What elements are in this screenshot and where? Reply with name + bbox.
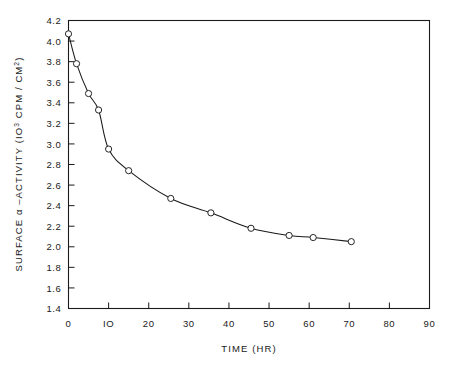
data-point-marker-0 bbox=[65, 31, 71, 37]
data-point-marker-8 bbox=[248, 225, 254, 231]
y-tick-label: 4.2 bbox=[46, 15, 61, 26]
data-point-marker-4 bbox=[106, 146, 112, 152]
data-point-marker-9 bbox=[286, 232, 292, 238]
y-tick-label: 3.0 bbox=[46, 139, 61, 150]
x-tick-label: 80 bbox=[383, 318, 395, 329]
y-tick-label: 2.4 bbox=[46, 200, 61, 211]
y-tick-label: 1.6 bbox=[46, 283, 61, 294]
y-tick-label: 1.8 bbox=[46, 262, 61, 273]
data-point-marker-6 bbox=[168, 195, 174, 201]
x-tick-label: 60 bbox=[303, 318, 315, 329]
x-tick-label: IO bbox=[103, 318, 114, 329]
y-tick-label: 2.0 bbox=[46, 241, 61, 252]
y-tick-label: 4.0 bbox=[46, 36, 61, 47]
y-tick-label: 3.2 bbox=[46, 118, 61, 129]
data-point-marker-10 bbox=[310, 234, 316, 240]
y-tick-label: 2.6 bbox=[46, 180, 61, 191]
y-tick-label: 2.8 bbox=[46, 159, 61, 170]
data-point-marker-2 bbox=[85, 90, 91, 96]
x-tick-label: 50 bbox=[263, 318, 275, 329]
chart-svg: 0IO2030405060708090 1.41.61.82.02.22.42.… bbox=[0, 0, 461, 370]
x-tick-label: 30 bbox=[183, 318, 195, 329]
y-tick-label: 2.2 bbox=[46, 221, 61, 232]
y-tick-label: 3.8 bbox=[46, 56, 61, 67]
x-tick-label: 70 bbox=[343, 318, 355, 329]
x-tick-label: 40 bbox=[223, 318, 235, 329]
y-axis-title: SURFACE α –ACTIVITY (IO3 CPM / CM2) bbox=[13, 57, 24, 272]
svg-text:SURFACE α –ACTIVITY (IO3 CPM: SURFACE α –ACTIVITY (IO3 CPM / CM2) bbox=[13, 57, 24, 272]
data-point-marker-11 bbox=[348, 239, 354, 245]
data-point-marker-7 bbox=[208, 210, 214, 216]
y-tick-label: 1.4 bbox=[46, 303, 61, 314]
x-axis-title: TIME (HR) bbox=[221, 343, 276, 354]
data-point-marker-1 bbox=[73, 61, 79, 67]
figure-container: 0IO2030405060708090 1.41.61.82.02.22.42.… bbox=[0, 0, 461, 370]
x-tick-label: 0 bbox=[66, 318, 72, 329]
y-tick-label: 3.6 bbox=[46, 77, 61, 88]
y-tick-label: 3.4 bbox=[46, 97, 61, 108]
x-tick-label: 90 bbox=[424, 318, 436, 329]
data-point-marker-5 bbox=[126, 168, 132, 174]
x-tick-label: 20 bbox=[143, 318, 155, 329]
y-axis-tick-labels: 1.41.61.82.02.22.42.62.83.03.23.43.63.84… bbox=[46, 15, 61, 314]
data-point-marker-3 bbox=[95, 107, 101, 113]
